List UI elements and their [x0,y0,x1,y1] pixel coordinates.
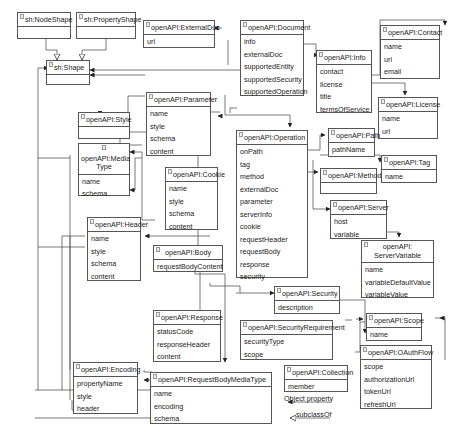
class-header: openAPI:Server [331,201,386,215]
class-box-document[interactable]: openAPI:Document info externalDoc suppor… [240,20,304,96]
class-box-sh-shape[interactable]: sh:Shape [46,60,90,85]
attribute: schema [154,413,268,426]
class-box-encoding[interactable]: openAPI:Encoding propertyName style head… [73,362,138,414]
class-header: openAPI:ExternalDoc [144,21,214,35]
class-header: openAPI:Header [88,218,140,232]
class-header: openAPI:SecurityRequirement [241,321,332,335]
class-icon [90,219,94,224]
attribute: propertyName [77,378,134,391]
class-icon [381,99,385,104]
attribute: scope [364,361,428,374]
class-box-method[interactable]: openAPI:Method [320,168,377,194]
class-box-oauthflow[interactable]: openAPI:OAuthFlow scope authorizationUrl… [360,345,432,409]
attribute: termsOfService [320,104,368,117]
class-header: openAPI:Contact [381,26,439,40]
class-icon [364,242,368,247]
class-box-servervariable[interactable]: openAPI: ServerVariable name variableDef… [361,240,434,298]
class-icon [277,288,281,293]
attribute: style [150,121,207,134]
class-header: sh:PropertyShape [77,13,135,27]
class-header: openAPI:Scope [367,314,421,328]
class-box-sh-propertyshape[interactable]: sh:PropertyShape [76,12,136,39]
class-icon [146,22,150,27]
attribute: name [384,41,436,54]
class-header: openAPI:Media Type [79,144,129,175]
attribute: name [150,108,207,121]
attribute: content [150,146,207,159]
attribute: method [240,171,304,184]
class-header: openAPI:Response [154,311,220,325]
attribute: name [91,233,137,246]
class-header: openAPI:Collection [285,366,347,380]
attribute: supportedOperation [244,86,300,99]
attribute: refreshUrl [364,399,428,412]
class-header: openAPI:Security [275,287,339,301]
attribute: email [384,66,436,79]
class-box-server[interactable]: openAPI:Server host variable [330,200,387,239]
class-icon [369,315,373,320]
attribute: name [169,183,214,196]
class-header: openAPI:Style [79,113,129,127]
class-box-mediatype[interactable]: openAPI:Media Type name schema [78,143,130,196]
class-box-securityrequirement[interactable]: openAPI:SecurityRequirement securityType… [240,320,333,360]
attribute: url [382,126,434,139]
attribute: schema [169,208,214,221]
class-icon [287,367,291,372]
class-header: openAPI:Document [241,21,303,35]
class-header: sh:Shape [47,61,89,75]
attribute: style [77,391,134,404]
attribute: security [240,271,304,284]
legend-object-property-label: Object property [284,394,333,403]
class-box-scope[interactable]: openAPI:Scope name [366,313,422,341]
attribute: variableValue [365,289,430,302]
attribute: title [320,91,368,104]
attribute: member [288,381,344,394]
legend-subclassof-label: subclassOf [296,410,332,419]
class-header: openAPI:Operation [237,131,307,145]
class-box-sh-nodeshape[interactable]: sh:NodeShape [17,12,71,39]
attribute: externalDoc [244,49,300,62]
attribute: content [169,221,214,234]
class-box-operation[interactable]: openAPI:Operation onPath tag method exte… [236,130,308,278]
class-icon [363,347,367,352]
attribute: schema [150,133,207,146]
attribute: name [382,113,434,126]
class-box-security[interactable]: openAPI:Security description [274,286,340,314]
attribute: requestBody [240,246,304,259]
class-header: openAPI:Body [154,246,222,260]
class-header: openAPI:OAuthFlow [361,346,431,360]
class-box-header[interactable]: openAPI:Header name style schema content [87,217,141,281]
attribute: style [91,246,137,259]
class-box-tag[interactable]: openAPI:Tag name [381,155,437,183]
class-box-info[interactable]: openAPI:Info contact license title terms… [316,50,372,113]
class-icon [156,312,160,317]
attribute: supportedEntity [244,61,300,74]
attribute: onPath [240,146,304,159]
class-header: openAPI:RequestBodyMediaType [151,373,271,387]
attribute: info [244,36,300,49]
class-box-style[interactable]: openAPI:Style [78,112,130,139]
class-icon [243,322,247,327]
class-box-response[interactable]: openAPI:Response statusCode responseHead… [153,310,221,362]
class-box-collection[interactable]: openAPI:Collection member [284,365,348,392]
class-icon [333,202,337,207]
attribute: style [169,196,214,209]
attribute: externalDoc [240,184,304,197]
class-icon [79,14,83,19]
class-box-cookie[interactable]: openAPI:Cookie name style schema content [165,167,218,230]
class-box-requestbodymediatype[interactable]: openAPI:RequestBodyMediaType name encodi… [150,372,272,424]
attribute: url [384,54,436,67]
class-box-contact[interactable]: openAPI:Contact name url email [380,25,440,79]
class-box-license[interactable]: openAPI:License name url [378,97,438,139]
attribute: name [365,264,430,277]
class-header: openAPI:Method [321,169,376,183]
attribute: contact [320,66,368,79]
attribute: host [334,216,383,229]
class-icon [384,157,388,162]
attribute: supportedSecurity [244,74,300,87]
class-box-parameter[interactable]: openAPI:Parameter name style schema cont… [146,92,211,156]
attribute: name [154,388,268,401]
class-box-externaldoc[interactable]: openAPI:ExternalDoc url [143,20,215,48]
class-box-path[interactable]: openAPI:Path pathName [328,128,375,157]
class-box-body[interactable]: openAPI:Body requestBodyContent [153,245,223,272]
